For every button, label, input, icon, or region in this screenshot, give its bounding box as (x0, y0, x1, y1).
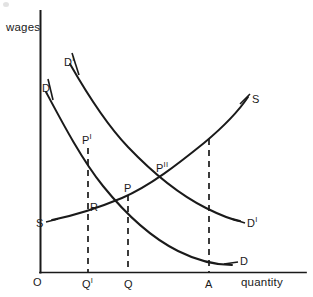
point-label-p: P (124, 181, 132, 194)
curve-label-supply-top: S (252, 92, 260, 105)
y-axis-label: wages (6, 22, 40, 34)
point-label-p2-text: P (156, 162, 164, 174)
supply-demand-figure: wages quantity O QI Q A D DI S S DI D PI… (0, 0, 313, 297)
x-tick-q1: QI (82, 277, 93, 290)
leader-demand-end (224, 262, 238, 264)
curve-label-demand-top-text: D (42, 82, 50, 94)
curve-label-demand-shift-end: DI (247, 216, 258, 229)
demand-shift-curve (70, 64, 240, 221)
curve-label-demand-shift-end-text: D (247, 217, 255, 229)
diagram-canvas (0, 0, 313, 297)
curve-label-supply-start-text: S (36, 217, 44, 229)
x-tick-q1-text: Q (82, 278, 91, 290)
point-label-p1-sup: I (90, 132, 92, 141)
x-tick-a: A (205, 277, 213, 290)
leader-demand-shift-end (232, 219, 245, 223)
point-label-p-text: P (124, 182, 132, 194)
origin-label: O (33, 277, 42, 288)
x-tick-q: Q (124, 277, 133, 290)
curve-label-demand-top: D (42, 81, 50, 94)
x-axis-label: quantity (241, 277, 283, 289)
curve-label-demand-shift-top-sup: I (72, 54, 74, 63)
x-tick-q-text: Q (124, 278, 133, 290)
curve-label-demand-shift-top-text: D (64, 56, 72, 68)
point-label-p2: PII (156, 161, 168, 174)
curve-label-demand-end-text: D (240, 255, 248, 267)
curve-label-demand-shift-top: DI (64, 55, 75, 68)
curve-label-supply-start: S (36, 216, 44, 229)
supply-curve (52, 97, 248, 220)
x-tick-a-text: A (205, 278, 213, 290)
point-label-r-text: R (90, 201, 98, 213)
point-label-p1-text: P (82, 134, 90, 146)
point-label-r: R (90, 200, 98, 213)
point-label-p1: PI (82, 133, 92, 146)
curve-label-demand-end: D (240, 254, 248, 267)
curve-label-supply-top-text: S (252, 93, 260, 105)
x-tick-q1-sup: I (91, 276, 93, 285)
demand-curve (46, 92, 232, 265)
point-label-p2-sup: II (164, 160, 169, 169)
curve-label-demand-shift-end-sup: I (255, 215, 257, 224)
